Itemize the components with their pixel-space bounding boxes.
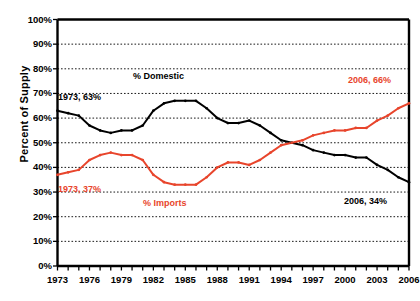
- x-axis-tick-labels: 1973197619791982198519881991199419972000…: [0, 0, 420, 301]
- domestic-series-label: % Domestic: [133, 71, 184, 81]
- imports-start-label: 1973, 37%: [58, 184, 101, 194]
- domestic-end-label: 2006, 34%: [344, 196, 387, 206]
- imports-end-label: 2006, 66%: [348, 75, 391, 85]
- domestic-start-label: 1973, 63%: [58, 92, 101, 102]
- chart-container: Percent of Supply 100%90%80%70%60%50%40%…: [0, 0, 420, 301]
- imports-series-label: % Imports: [143, 198, 187, 208]
- x-axis-tick-label: 2006: [386, 274, 420, 285]
